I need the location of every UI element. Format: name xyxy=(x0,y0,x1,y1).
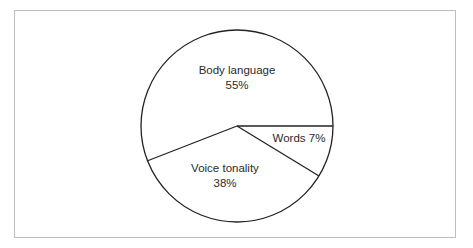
slice-label-voice-tonality: Voice tonality xyxy=(191,162,259,174)
slice-label-words: Words 7% xyxy=(273,132,326,144)
slice-label-body-language: Body language xyxy=(199,64,276,76)
slice-value-body-language: 55% xyxy=(225,79,248,91)
pie-chart: Body language 55% Voice tonality 38% Wor… xyxy=(0,0,473,248)
slice-value-voice-tonality: 38% xyxy=(213,177,236,189)
